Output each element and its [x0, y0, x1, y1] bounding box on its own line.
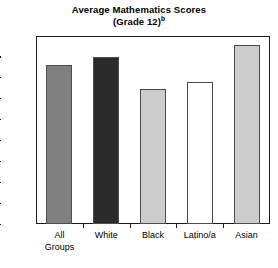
bar-slot — [223, 36, 270, 224]
bar-slot — [83, 36, 130, 224]
chart-figure: Average Mathematics Scores (Grade 12)b 1… — [0, 0, 278, 268]
y-axis-tick-mark — [0, 140, 1, 141]
bar-slot — [36, 36, 83, 224]
bar-black — [140, 89, 166, 224]
bar-slot — [176, 36, 223, 224]
chart-title: Average Mathematics Scores — [0, 4, 278, 16]
y-axis-tick-mark — [0, 119, 1, 120]
bar-white — [93, 57, 119, 224]
x-axis-label-line: Asian — [217, 230, 276, 242]
x-axis-tick-mark — [130, 224, 131, 228]
x-axis-tick-mark — [83, 224, 84, 228]
x-axis-label-line: Groups — [30, 242, 89, 254]
x-axis-tick-mark — [223, 224, 224, 228]
bar-all-groups — [46, 65, 72, 224]
chart-subtitle-superscript: b — [161, 15, 165, 22]
y-axis: 180160140120100806040200 — [0, 0, 36, 268]
y-axis-tick-mark — [0, 77, 1, 78]
x-axis-ticks — [36, 224, 270, 229]
bar-series — [36, 36, 270, 224]
chart-subtitle: (Grade 12)b — [0, 16, 278, 28]
y-axis-tick-mark — [0, 224, 1, 225]
bar-asian — [234, 45, 260, 224]
x-axis-tick-mark — [176, 224, 177, 228]
y-axis-tick-mark — [0, 182, 1, 183]
y-axis-tick-mark — [0, 56, 1, 57]
chart-subtitle-text: (Grade 12) — [113, 16, 161, 27]
x-axis-labels: AllGroupsWhiteBlackLatino/aAsian — [36, 230, 270, 264]
y-axis-tick-mark — [0, 161, 1, 162]
chart-title-block: Average Mathematics Scores (Grade 12)b — [0, 4, 278, 28]
y-axis-tick-mark — [0, 203, 1, 204]
x-axis-label: Asian — [217, 230, 276, 242]
bar-slot — [130, 36, 177, 224]
y-axis-tick-mark — [0, 98, 1, 99]
bar-latino-a — [187, 82, 213, 224]
